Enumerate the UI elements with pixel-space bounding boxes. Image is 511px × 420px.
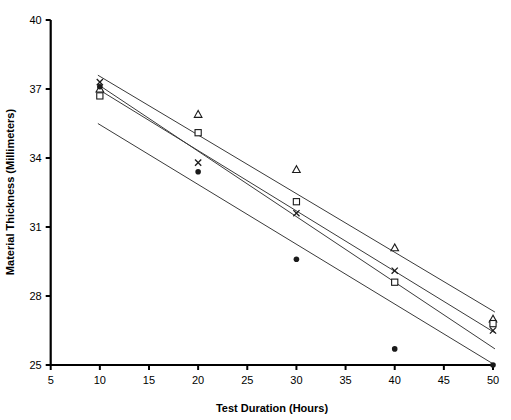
y-axis-tick-label: 25 — [29, 359, 41, 371]
scatter-chart: 252831343740 5101520253035404550 Test Du… — [0, 0, 511, 420]
chart-background — [0, 0, 511, 420]
y-axis-title: Material Thickness (Millimeters) — [4, 109, 16, 276]
x-axis-tick-label: 15 — [143, 374, 155, 386]
chart-canvas: 252831343740 5101520253035404550 Test Du… — [0, 0, 511, 420]
data-point-circle — [392, 346, 398, 352]
x-axis-title: Test Duration (Hours) — [216, 402, 329, 414]
y-axis-tick-label: 28 — [29, 290, 41, 302]
x-axis-tick-label: 45 — [438, 374, 450, 386]
y-axis-tick-label: 40 — [29, 14, 41, 26]
y-axis-tick-label: 31 — [29, 221, 41, 233]
data-point-square — [97, 93, 103, 99]
y-axis-tick-label: 34 — [29, 152, 41, 164]
y-axis-tick-label: 37 — [29, 83, 41, 95]
x-axis-tick-label: 20 — [192, 374, 204, 386]
data-point-circle — [97, 84, 103, 90]
x-axis-tick-label: 35 — [339, 374, 351, 386]
data-point-square — [195, 130, 201, 136]
x-axis-tick-label: 10 — [94, 374, 106, 386]
x-axis-tick-label: 5 — [48, 374, 54, 386]
data-point-square — [490, 321, 496, 327]
data-point-square — [392, 279, 398, 285]
x-axis-tick-label: 25 — [241, 374, 253, 386]
data-point-square — [293, 199, 299, 205]
x-axis-tick-label: 30 — [290, 374, 302, 386]
data-point-circle — [195, 169, 201, 175]
data-point-circle — [294, 256, 300, 262]
data-point-circle — [490, 362, 496, 368]
x-axis-tick-label: 50 — [487, 374, 499, 386]
x-axis-tick-label: 40 — [389, 374, 401, 386]
